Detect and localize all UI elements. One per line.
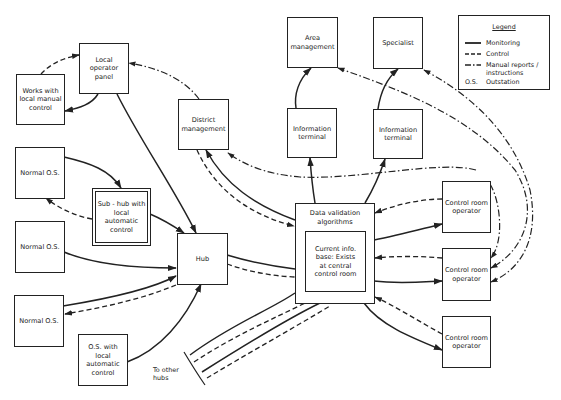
control-dva-hub	[227, 264, 295, 277]
normal-os-1-box: Normal O.S.	[15, 147, 65, 199]
control-cr1-to-dva	[375, 199, 442, 213]
dash-dot-line-icon	[465, 62, 481, 67]
legend-item-control: Control	[465, 51, 547, 60]
legend-label: Manual reports / instructions	[486, 62, 538, 77]
monitor-dva-to-cr2	[374, 281, 442, 283]
sub-hub-label: Sub - hub with local automatic control	[95, 191, 148, 243]
monitor-os2-to-hub	[64, 252, 176, 268]
local-operator-panel-box: Local operator panel	[79, 43, 129, 94]
data-validation-algorithms-box: Data validation algorithms Current info.…	[295, 203, 375, 304]
legend-item-outstation: O.S. Outstation	[465, 79, 547, 88]
legend-item-monitoring: Monitoring	[465, 40, 547, 49]
control-room-operator-1-box: Control room operator	[442, 181, 491, 233]
normal-os-3-box: Normal O.S.	[14, 295, 64, 347]
monitor-to-other-hubs-2	[202, 303, 320, 372]
to-other-hubs-label: To other hubs	[153, 366, 179, 382]
information-terminal-2-box: Information terminal	[373, 109, 423, 159]
legend: Legend Monitoring Control Manual reports…	[458, 15, 550, 90]
dashed-line-icon	[465, 51, 481, 56]
sub-hub-box: Sub - hub with local automatic control	[92, 188, 151, 246]
normal-os-2-box: Normal O.S.	[15, 221, 65, 273]
monitor-subhub-to-hub	[150, 214, 184, 233]
specialist-box: Specialist	[373, 17, 423, 69]
works-local-manual-control-box: Works with local manual control	[16, 74, 65, 125]
monitor-dva-to-it2	[365, 159, 385, 203]
solid-line-icon	[465, 40, 481, 45]
information-terminal-1-box: Information terminal	[287, 108, 337, 158]
control-to-other-hubs-2	[207, 306, 330, 378]
legend-title: Legend	[459, 23, 549, 31]
legend-item-manual-reports: Manual reports / instructions	[465, 62, 547, 78]
control-cr3-to-dva	[375, 297, 442, 334]
control-works-to-lop	[41, 55, 79, 74]
monitor-dva-to-district	[206, 150, 295, 220]
current-info-base-box: Current info. base: Exists at central co…	[305, 231, 366, 292]
legend-abbr: O.S.	[465, 79, 482, 87]
legend-label: Control	[486, 51, 509, 59]
control-cr2-to-dva	[375, 257, 442, 259]
legend-label: Monitoring	[486, 40, 520, 48]
monitor-os1-to-subhub	[64, 157, 121, 188]
control-room-operator-3-box: Control room operator	[442, 316, 491, 368]
area-management-box: Area management	[287, 17, 338, 68]
legend-label: Outstation	[486, 79, 520, 87]
reports-cr-loop	[490, 184, 500, 258]
monitor-it1-to-area	[296, 68, 311, 108]
monitor-lop-to-works	[65, 94, 98, 111]
monitor-dva-to-it1	[310, 158, 315, 203]
monitor-to-other-hubs-1	[190, 293, 295, 355]
control-hub-to-os3	[65, 285, 176, 314]
data-validation-title: Data validation algorithms	[296, 209, 374, 226]
monitor-dva-to-cr3	[364, 303, 442, 350]
control-district-to-dva	[197, 150, 294, 226]
hub-box: Hub	[177, 233, 228, 285]
os-local-automatic-control-box: O.S. with local automatic control	[78, 334, 128, 386]
control-subhub-to-os1	[46, 198, 92, 219]
monitor-dva-to-cr1	[374, 224, 442, 240]
district-management-box: District management	[178, 99, 229, 150]
reports-district-to-lop	[129, 63, 199, 99]
monitor-osauto-to-hub	[127, 284, 201, 362]
control-room-operator-2-box: Control room operator	[442, 248, 491, 301]
reports-cr-to-district	[228, 153, 476, 177]
